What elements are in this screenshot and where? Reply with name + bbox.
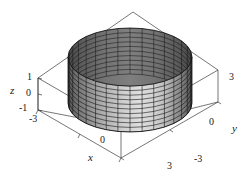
y-tick-0: 0 <box>209 117 214 127</box>
cylinder-surface <box>68 28 192 132</box>
z-tick-1: 1 <box>27 72 32 82</box>
x-tick-neg3: -3 <box>29 114 37 124</box>
y-tick-3: 3 <box>229 72 234 82</box>
y-axis-label: y <box>232 123 237 134</box>
z-axis-ticks <box>38 78 42 111</box>
y-tick-neg3: -3 <box>194 154 202 164</box>
x-axis-label: x <box>88 152 93 163</box>
x-tick-0: 0 <box>100 135 105 145</box>
plot-canvas <box>0 0 251 180</box>
z-tick-0: 0 <box>26 88 31 98</box>
x-tick-3: 3 <box>167 161 172 171</box>
z-tick-neg1: -1 <box>19 103 27 113</box>
z-axis-label: z <box>10 85 14 96</box>
cylinder-3d-plot-figure: z 1 0 -1 x -3 0 3 y -3 0 3 <box>0 0 251 180</box>
